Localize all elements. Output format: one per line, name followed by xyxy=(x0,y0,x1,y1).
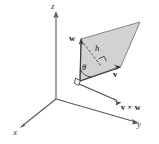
cross-product-shaft xyxy=(79,84,117,101)
parallelogram-surface xyxy=(80,22,140,81)
y-axis-label: y xyxy=(137,120,141,129)
x-axis-arrowhead xyxy=(20,123,28,128)
angle-theta-label: θ xyxy=(82,63,86,72)
z-axis-label: z xyxy=(51,2,55,11)
vector-cross-product xyxy=(79,84,122,105)
x-axis-label: x xyxy=(13,128,17,137)
vector-v-label: v xyxy=(113,70,117,79)
vector-cross-product-figure: z y x w v h θ v × w xyxy=(0,0,159,144)
vector-w-label: w xyxy=(69,34,75,43)
x-axis-line xyxy=(24,99,56,125)
height-label: h xyxy=(95,44,99,53)
x-axis xyxy=(20,99,57,128)
parallelogram-vw xyxy=(80,22,140,81)
figure-canvas xyxy=(0,0,159,144)
cross-product-label: v × w xyxy=(121,104,141,112)
z-axis xyxy=(53,11,58,99)
